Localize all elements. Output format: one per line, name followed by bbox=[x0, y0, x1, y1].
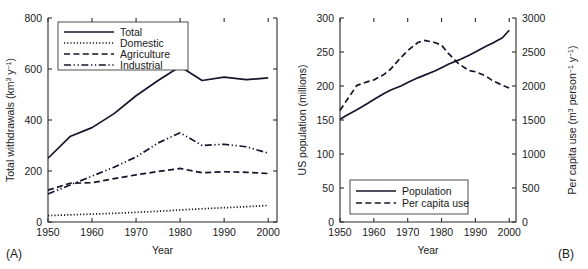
x-ticklabel-b: 1990 bbox=[464, 226, 488, 238]
y-axis-title-a: Total withdrawals (km3 y−1) bbox=[4, 58, 16, 182]
legend-label-population: Population bbox=[402, 185, 452, 197]
y-ticklabel-b-left: 100 bbox=[316, 148, 334, 160]
x-ticklabel-b: 1970 bbox=[396, 226, 420, 238]
x-ticklabel-a: 1960 bbox=[80, 226, 104, 238]
x-ticklabel-b: 1950 bbox=[328, 226, 352, 238]
x-ticklabel-b: 2000 bbox=[498, 226, 522, 238]
chart-panel-a: 0200400600800195019601970198019902000Yea… bbox=[0, 0, 294, 269]
x-ticklabel-a: 2000 bbox=[257, 226, 281, 238]
y-ticklabel-a: 800 bbox=[24, 12, 42, 24]
y-ticklabel-b-right: 1000 bbox=[522, 148, 546, 160]
panel-a-tag: (A) bbox=[6, 247, 22, 261]
y-ticklabel-b-right: 1500 bbox=[522, 114, 546, 126]
population-percapita-chart: 0501001502002503000500100015002000250030… bbox=[294, 0, 588, 269]
y-ticklabel-b-right: 2500 bbox=[522, 46, 546, 58]
y-ticklabel-b-left: 150 bbox=[316, 114, 334, 126]
y-ticklabel-b-left: 200 bbox=[316, 80, 334, 92]
figure-container: 0200400600800195019601970198019902000Yea… bbox=[0, 0, 588, 269]
legend-panel-a: TotalDomesticAgricultureIndustrial bbox=[58, 22, 188, 71]
y-axis-title-b-left: US population (millions) bbox=[296, 65, 308, 176]
y-ticklabel-a: 400 bbox=[24, 114, 42, 126]
y-ticklabel-b-left: 50 bbox=[322, 182, 334, 194]
legend-label-industrial: Industrial bbox=[120, 59, 163, 71]
x-ticklabel-a: 1970 bbox=[124, 226, 148, 238]
y-ticklabel-a: 600 bbox=[24, 63, 42, 75]
x-ticklabel-b: 1980 bbox=[430, 226, 454, 238]
y-ticklabel-b-left: 250 bbox=[316, 46, 334, 58]
y-ticklabel-b-left: 300 bbox=[316, 12, 334, 24]
legend-panel-b: PopulationPer capita use bbox=[350, 180, 469, 214]
x-axis-title-b: Year bbox=[417, 244, 439, 256]
water-withdrawals-chart: 0200400600800195019601970198019902000Yea… bbox=[0, 0, 294, 269]
x-ticklabel-a: 1980 bbox=[168, 226, 192, 238]
x-ticklabel-b: 1960 bbox=[362, 226, 386, 238]
panel-b-tag: (B) bbox=[558, 247, 574, 261]
x-ticklabel-a: 1950 bbox=[36, 226, 60, 238]
x-axis-title-a: Year bbox=[152, 244, 174, 256]
y-ticklabel-b-right: 500 bbox=[522, 182, 540, 194]
y-ticklabel-b-right: 2000 bbox=[522, 80, 546, 92]
x-ticklabel-a: 1990 bbox=[212, 226, 236, 238]
y-ticklabel-a: 200 bbox=[24, 165, 42, 177]
y-ticklabel-b-right: 0 bbox=[522, 216, 528, 228]
legend-label-per-capita-use: Per capita use bbox=[402, 197, 469, 209]
chart-panel-b: 0501001502002503000500100015002000250030… bbox=[294, 0, 588, 269]
y-ticklabel-b-right: 3000 bbox=[522, 12, 546, 24]
